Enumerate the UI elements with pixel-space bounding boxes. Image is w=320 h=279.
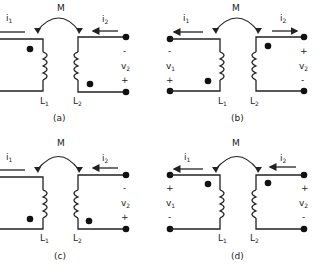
l2-top-wire bbox=[78, 37, 126, 52]
polarity-dot-l2 bbox=[86, 218, 93, 225]
l2-label: L2 bbox=[250, 233, 259, 244]
arrowhead-icon bbox=[212, 167, 219, 173]
l2-coil bbox=[252, 190, 256, 218]
coupled-inductors-figure: M i1 i2 - v2 + L1 L2 (a) M bbox=[0, 0, 320, 279]
l1-bottom-wire bbox=[0, 218, 43, 229]
mutual-label: M bbox=[232, 3, 240, 13]
v1-label: v1 bbox=[166, 198, 175, 209]
i1-label: i1 bbox=[6, 152, 13, 163]
mutual-label: M bbox=[232, 138, 240, 148]
v2-top-sign: - bbox=[123, 46, 126, 56]
i2-label: i2 bbox=[102, 14, 109, 25]
l1-coil bbox=[43, 190, 47, 218]
polarity-dot-l1 bbox=[27, 216, 34, 223]
l1-bottom-wire bbox=[0, 80, 43, 91]
l1-coil bbox=[220, 52, 224, 80]
polarity-dot-l2 bbox=[265, 43, 272, 50]
mutual-coupling-arc bbox=[37, 18, 79, 31]
mutual-label: M bbox=[57, 138, 65, 148]
l1-label: L1 bbox=[40, 233, 49, 244]
l2-top-wire bbox=[78, 175, 126, 190]
polarity-dot-l2 bbox=[87, 81, 94, 88]
v1-label: v1 bbox=[166, 61, 175, 72]
terminal-dot bbox=[301, 226, 308, 233]
arrowhead-icon bbox=[34, 28, 41, 34]
v2-bottom-sign: + bbox=[121, 212, 129, 222]
mutual-coupling-arc bbox=[37, 157, 79, 171]
l1-top-wire bbox=[170, 175, 220, 190]
terminal-dot bbox=[123, 226, 130, 233]
l1-bottom-wire bbox=[170, 218, 220, 229]
arrowhead-icon bbox=[76, 167, 83, 173]
v2-label: v2 bbox=[121, 198, 130, 209]
v2-label: v2 bbox=[299, 61, 308, 72]
terminal-dot bbox=[301, 172, 308, 179]
terminal-dot bbox=[301, 88, 308, 95]
l2-label: L2 bbox=[250, 96, 259, 107]
l2-bottom-wire bbox=[78, 80, 126, 92]
panel-caption: (b) bbox=[231, 113, 244, 123]
panel-a: M i1 i2 - v2 + L1 L2 (a) bbox=[0, 3, 130, 123]
i2-label: i2 bbox=[280, 13, 287, 24]
l2-bottom-wire bbox=[78, 218, 126, 229]
terminal-dot bbox=[123, 89, 130, 96]
l1-label: L1 bbox=[40, 96, 49, 107]
panel-b: M i1 i2 - v1 + + v2 - L1 L2 (b) bbox=[166, 3, 308, 123]
l1-coil bbox=[220, 190, 224, 218]
l1-label: L1 bbox=[218, 233, 227, 244]
i2-label: i2 bbox=[280, 153, 287, 164]
mutual-label: M bbox=[57, 3, 65, 13]
v1-top-sign: + bbox=[166, 183, 174, 193]
l2-coil bbox=[74, 52, 78, 80]
v1-bottom-sign: - bbox=[168, 212, 171, 222]
l2-coil bbox=[252, 52, 256, 80]
arrowhead-icon bbox=[212, 28, 219, 34]
polarity-dot-l2 bbox=[265, 180, 272, 187]
i1-label: i1 bbox=[6, 13, 13, 24]
i1-label: i1 bbox=[183, 13, 190, 24]
arrowhead-icon bbox=[34, 167, 41, 173]
v2-top-sign: + bbox=[301, 183, 309, 193]
terminal-dot bbox=[123, 172, 130, 179]
l2-bottom-wire bbox=[256, 218, 304, 229]
l1-top-wire bbox=[0, 39, 43, 52]
v1-bottom-sign: + bbox=[166, 75, 174, 85]
v2-bottom-sign: + bbox=[121, 75, 129, 85]
v2-bottom-sign: - bbox=[302, 212, 305, 222]
polarity-dot-l1 bbox=[205, 181, 212, 188]
mutual-coupling-arc bbox=[215, 157, 258, 171]
l1-bottom-wire bbox=[170, 80, 220, 91]
l2-coil bbox=[74, 190, 78, 218]
panel-caption: (a) bbox=[53, 113, 66, 123]
l1-coil bbox=[43, 52, 47, 80]
arrowhead-icon bbox=[255, 28, 262, 34]
panel-d: M i1 i2 + v1 - + v2 - L1 L2 (d) bbox=[166, 138, 309, 261]
l1-top-wire bbox=[170, 39, 220, 52]
l1-label: L1 bbox=[218, 96, 227, 107]
l1-top-wire bbox=[0, 177, 43, 190]
i1-label: i1 bbox=[184, 152, 191, 163]
l2-bottom-wire bbox=[256, 80, 304, 91]
v2-bottom-sign: - bbox=[301, 75, 304, 85]
v2-top-sign: - bbox=[123, 183, 126, 193]
mutual-coupling-arc bbox=[215, 18, 258, 31]
polarity-dot-l1 bbox=[27, 46, 34, 53]
terminal-dot bbox=[301, 34, 308, 41]
polarity-dot-l1 bbox=[205, 78, 212, 85]
i2-label: i2 bbox=[102, 153, 109, 164]
terminal-dot bbox=[123, 34, 130, 41]
arrowhead-icon bbox=[255, 167, 262, 173]
panel-caption: (c) bbox=[54, 251, 66, 261]
l2-label: L2 bbox=[73, 96, 82, 107]
l2-top-wire bbox=[256, 175, 304, 190]
panel-c: M i1 i2 - v2 + L1 L2 (c) bbox=[0, 138, 130, 261]
l2-label: L2 bbox=[73, 233, 82, 244]
v2-label: v2 bbox=[121, 61, 130, 72]
l2-top-wire bbox=[256, 37, 304, 52]
v1-top-sign: - bbox=[168, 46, 171, 56]
arrowhead-icon bbox=[76, 28, 83, 34]
v2-top-sign: + bbox=[300, 46, 308, 56]
v2-label: v2 bbox=[299, 198, 308, 209]
panel-caption: (d) bbox=[231, 251, 244, 261]
